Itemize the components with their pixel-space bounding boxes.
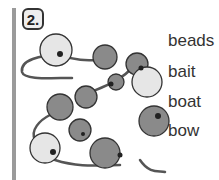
word-bait: bait <box>168 63 195 80</box>
word-beads: beads <box>168 32 214 49</box>
word-bow: bow <box>168 122 199 139</box>
beads-on-string-illustration <box>0 0 219 180</box>
word-boat: boat <box>168 93 201 110</box>
